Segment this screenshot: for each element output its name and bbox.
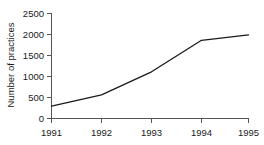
- x-tick-label-1993: 1993: [141, 127, 162, 138]
- x-tick-label-1994: 1994: [191, 127, 212, 138]
- x-tick-label-1995: 1995: [238, 127, 259, 138]
- data-series-line: [52, 35, 249, 106]
- y-axis-title: Number of practices: [5, 22, 16, 107]
- y-tick-label-500: 500: [28, 92, 44, 103]
- y-tick-label-2500: 2500: [23, 8, 44, 19]
- y-tick-label-1500: 1500: [23, 50, 44, 61]
- y-tick-label-0: 0: [39, 113, 44, 124]
- x-tick-label-1992: 1992: [91, 127, 112, 138]
- y-tick-label-1000: 1000: [23, 71, 44, 82]
- x-tick-label-1991: 1991: [41, 127, 62, 138]
- line-chart: Number of practices 2500 2000 1500 1000 …: [0, 0, 264, 145]
- y-tick-label-2000: 2000: [23, 29, 44, 40]
- chart-canvas: Number of practices 2500 2000 1500 1000 …: [0, 0, 264, 145]
